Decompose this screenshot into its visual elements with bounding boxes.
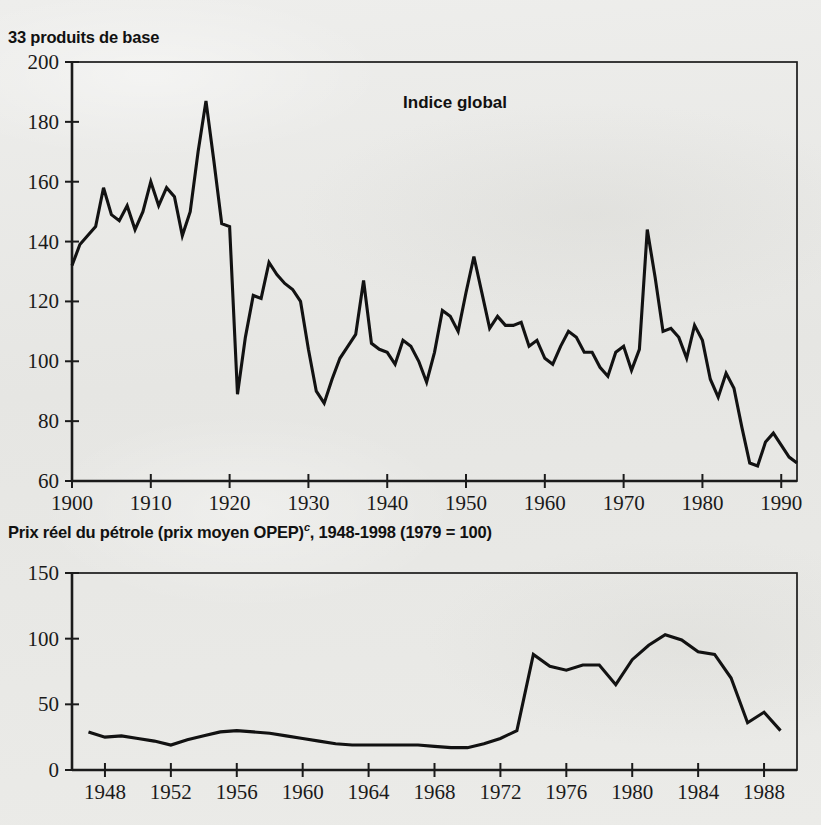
- plot-border-top: [72, 62, 797, 481]
- y-tick-label: 180: [28, 110, 60, 134]
- commodity-index-plot: 6080100120140160180200 19001910192019301…: [0, 0, 821, 515]
- figure-page: 33 produits de base 60801001201401601802…: [0, 0, 821, 825]
- y-tick-label: 50: [38, 692, 59, 716]
- x-tick-label: 1952: [150, 780, 192, 804]
- y-tick-label: 60: [38, 469, 59, 493]
- x-tick-label: 1948: [84, 780, 126, 804]
- x-tick-label: 1972: [479, 780, 521, 804]
- y-axis-tick-labels-bottom: 050100150: [28, 561, 60, 782]
- y-tick-label: 100: [28, 349, 60, 373]
- y-tick-label: 100: [28, 627, 60, 651]
- chart-commodity-index: 6080100120140160180200 19001910192019301…: [0, 0, 821, 515]
- x-tick-label: 1980: [611, 780, 653, 804]
- x-tick-label: 1988: [743, 780, 785, 804]
- y-tick-label: 140: [28, 230, 60, 254]
- x-tick-label: 1964: [348, 780, 391, 804]
- y-tick-label: 160: [28, 170, 60, 194]
- y-tick-label: 150: [28, 561, 60, 585]
- y-tick-label: 200: [28, 50, 60, 74]
- data-line-oil-price: [88, 635, 780, 748]
- y-axis-tick-labels-top: 6080100120140160180200: [28, 50, 60, 493]
- chart-oil-price: 050100150 194819521956196019641968197219…: [0, 510, 821, 825]
- x-axis-tick-labels-bottom: 1948195219561960196419681972197619801984…: [84, 780, 785, 804]
- x-tick-label: 1984: [677, 780, 720, 804]
- series-label-indice-global: Indice global: [403, 93, 507, 112]
- y-tick-label: 80: [38, 409, 59, 433]
- y-tick-label: 120: [28, 289, 60, 313]
- x-tick-label: 1968: [414, 780, 456, 804]
- y-tick-label: 0: [49, 758, 60, 782]
- x-tick-label: 1976: [545, 780, 587, 804]
- data-line-indice-global: [72, 101, 797, 466]
- x-tick-label: 1960: [282, 780, 324, 804]
- oil-price-plot: 050100150 194819521956196019641968197219…: [0, 510, 821, 825]
- x-tick-label: 1956: [216, 780, 258, 804]
